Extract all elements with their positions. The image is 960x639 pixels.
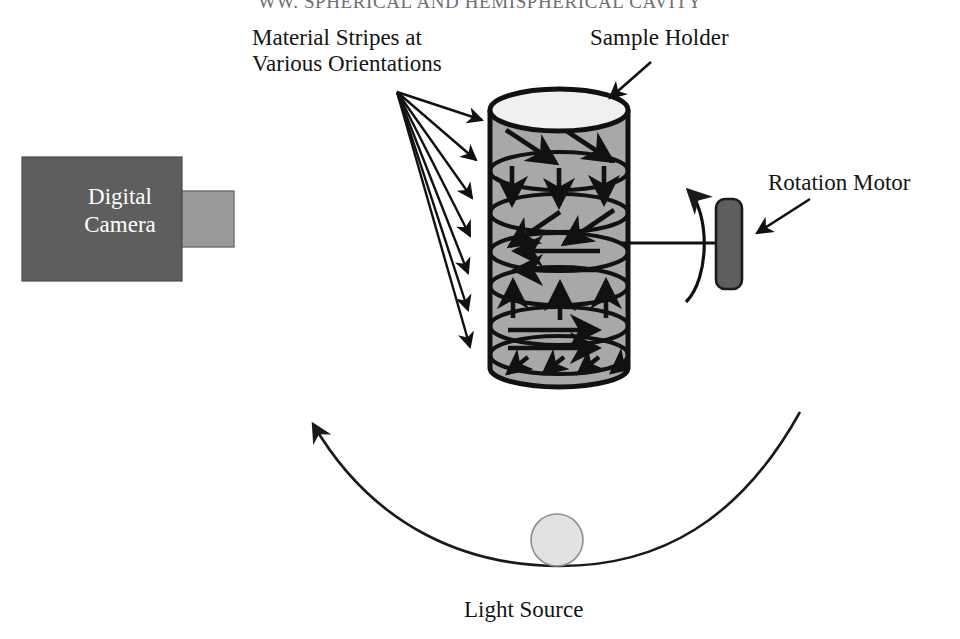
sample-holder-pointer-arrow (610, 62, 651, 98)
camera-caption: Digital Camera (22, 183, 218, 238)
label-sample-holder: Sample Holder (590, 25, 729, 51)
label-material-stripes: Material Stripes at Various Orientations (252, 25, 442, 77)
leader-arrow-5 (397, 92, 468, 273)
camera-caption-line1: Digital (22, 183, 218, 211)
rotation-motor-body (716, 199, 742, 289)
leader-arrow-7 (397, 92, 470, 347)
label-material-stripes-line1: Material Stripes at (252, 25, 442, 51)
figure-canvas: WW. SPHERICAL AND HEMISPHERICAL CAVITY (0, 0, 960, 639)
sample-holder-cylinder-group (490, 89, 632, 387)
label-light-source: Light Source (464, 597, 583, 623)
leader-arrow-3 (397, 92, 472, 198)
camera-caption-line2: Camera (22, 211, 218, 239)
cylinder-top-face (490, 89, 628, 131)
rotation-motor-pointer-arrow (757, 199, 810, 233)
light-source (531, 514, 583, 566)
label-material-stripes-line2: Various Orientations (252, 51, 442, 77)
leader-arrow-6 (397, 92, 468, 310)
motor-assembly-group (620, 190, 742, 302)
rotation-direction-arrow (686, 190, 704, 302)
material-stripes-leader-arrows (397, 92, 482, 347)
label-rotation-motor: Rotation Motor (768, 170, 910, 196)
diagram-illustration (0, 0, 960, 639)
